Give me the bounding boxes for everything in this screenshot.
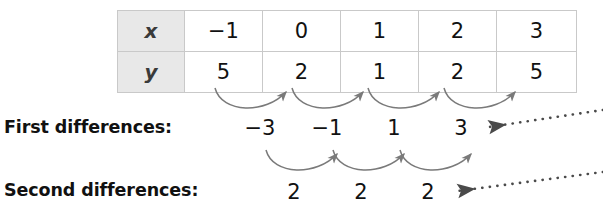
row-header-y: y — [118, 52, 185, 93]
cell-x-0: −1 — [185, 11, 263, 52]
table-row: x −1 0 1 2 3 — [118, 11, 577, 52]
cell-y-2: 1 — [341, 52, 419, 93]
cell-y-4: 5 — [497, 52, 577, 93]
first-difference-value-0: −3 — [240, 116, 280, 140]
second-differences-label: Second differences: — [4, 180, 198, 200]
second-difference-value-1: 2 — [341, 180, 381, 204]
first-difference-value-2: 1 — [374, 116, 414, 140]
second-difference-value-0: 2 — [274, 180, 314, 204]
cell-x-2: 1 — [341, 11, 419, 52]
second-difference-value-2: 2 — [408, 180, 448, 204]
second-difference-curves — [266, 150, 471, 170]
curve-arrow-d1-d2 — [333, 150, 404, 170]
first-difference-value-1: −1 — [307, 116, 347, 140]
first-differences-label: First differences: — [4, 117, 172, 137]
cell-y-0: 5 — [185, 52, 263, 93]
callout-arrow-second-differences — [458, 172, 603, 191]
figure-root: x −1 0 1 2 3 y 5 2 1 2 5 First differenc… — [0, 0, 603, 223]
curve-arrow-d2-d3 — [400, 150, 471, 170]
cell-y-3: 2 — [419, 52, 497, 93]
first-difference-value-3: 3 — [441, 116, 481, 140]
table-row: y 5 2 1 2 5 — [118, 52, 577, 93]
row-header-x: x — [118, 11, 185, 52]
cell-x-4: 3 — [497, 11, 577, 52]
cell-x-3: 2 — [419, 11, 497, 52]
values-table: x −1 0 1 2 3 y 5 2 1 2 5 — [117, 10, 577, 93]
callout-arrow-first-differences — [489, 110, 603, 127]
cell-y-1: 2 — [263, 52, 341, 93]
cell-x-1: 0 — [263, 11, 341, 52]
curve-arrow-d0-d1 — [266, 150, 337, 170]
